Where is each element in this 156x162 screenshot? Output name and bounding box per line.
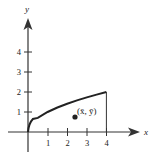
y-tick-labels: 1 2 3 4 [17,47,22,117]
y-tick-label: 2 [17,87,21,97]
y-tick-label: 1 [17,107,21,117]
x-tick-label: 3 [85,138,89,148]
y-axis-label: y [24,4,29,14]
y-tick-label: 3 [17,67,21,77]
x-tick-label: 1 [46,138,50,148]
x-axis-label: x [143,127,148,137]
x-tick-label: 4 [104,138,109,148]
x-tick-label: 2 [65,138,69,148]
x-tick-labels: 1 2 3 4 [46,138,110,148]
y-tick-label: 4 [17,47,22,57]
centroid-chart: x y 1 2 3 4 1 2 3 4 (x̄, ȳ) [0,0,156,162]
centroid-label: (x̄, ȳ) [77,106,97,116]
